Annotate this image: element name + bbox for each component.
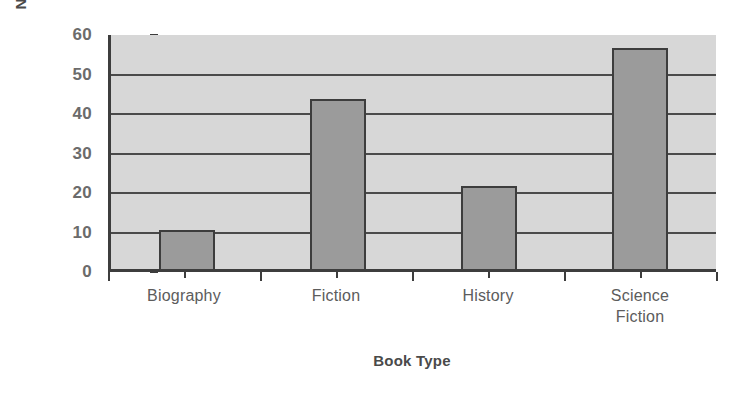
- y-axis-tick-label: 0: [48, 262, 92, 282]
- x-axis-tick-label-line: Biography: [108, 285, 260, 306]
- x-axis-tick-marks: [108, 272, 716, 282]
- bars-container: [111, 35, 716, 269]
- bar-biography: [159, 230, 215, 270]
- x-axis-minor-tick-mark: [184, 272, 186, 278]
- x-axis-tick-mark: [108, 272, 110, 281]
- x-axis-tick-mark: [564, 272, 566, 281]
- x-axis-tick-labels: BiographyFictionHistoryScienceFiction: [108, 285, 716, 327]
- x-axis-tick-label: Biography: [108, 285, 260, 327]
- bar-science-fiction: [612, 48, 668, 269]
- x-axis-tick-label: History: [412, 285, 564, 327]
- bar-slot: [565, 35, 716, 269]
- bar-history: [461, 186, 517, 269]
- y-axis-tick-label: 60: [48, 25, 92, 45]
- y-axis-tick-label: 20: [48, 183, 92, 203]
- x-axis-tick-mark: [260, 272, 262, 281]
- x-axis-minor-tick-mark: [488, 272, 490, 278]
- x-axis-tick-label: ScienceFiction: [564, 285, 716, 327]
- bar-chart: Number of Students 0102030405060 Biograp…: [0, 0, 740, 407]
- x-axis-tick-label-line: History: [412, 285, 564, 306]
- bar-slot: [111, 35, 262, 269]
- y-axis-tick-label: 30: [48, 144, 92, 164]
- x-axis-tick-mark: [716, 272, 718, 281]
- x-axis-tick-label: Fiction: [260, 285, 412, 327]
- y-axis-title: Number of Students: [8, 0, 32, 56]
- x-axis-tick-mark: [412, 272, 414, 281]
- x-axis-tick-label-line: Science: [564, 285, 716, 306]
- x-axis-tick-label-line: Fiction: [260, 285, 412, 306]
- x-axis-minor-tick-mark: [336, 272, 338, 278]
- y-axis-tick-label: 40: [48, 104, 92, 124]
- bar-slot: [414, 35, 565, 269]
- x-axis-minor-tick-mark: [640, 272, 642, 278]
- bar-slot: [262, 35, 413, 269]
- x-axis-title: Book Type: [108, 352, 716, 369]
- y-axis-tick-label: 10: [48, 223, 92, 243]
- y-axis-tick-label: 50: [48, 65, 92, 85]
- bar-fiction: [310, 99, 366, 269]
- plot-area: [108, 35, 716, 272]
- x-axis-tick-label-line: Fiction: [564, 306, 716, 327]
- y-axis-tick-labels: 0102030405060: [48, 35, 98, 272]
